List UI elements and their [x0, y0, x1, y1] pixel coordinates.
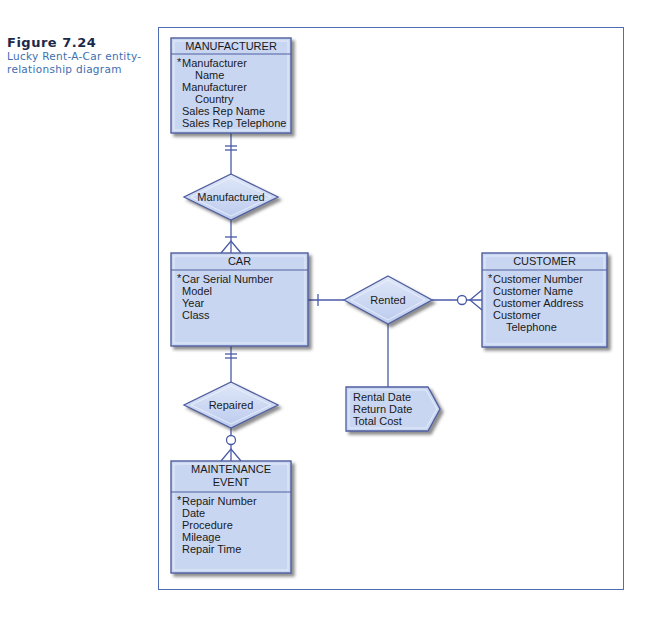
entity-attribute: Repair Time [182, 543, 241, 555]
zero-circle-icon [227, 436, 236, 445]
entity-maintenance-event: MAINTENANCEEVENT*Repair NumberDateProced… [171, 461, 291, 573]
entity-attribute: Repair Number [182, 495, 257, 507]
relationship-repaired: Repaired [184, 382, 278, 428]
er-diagram: MANUFACTURER*ManufacturerNameManufacture… [0, 0, 655, 624]
relationship-label: Manufactured [197, 191, 264, 203]
entity-manufacturer: MANUFACTURER*ManufacturerNameManufacture… [171, 38, 291, 133]
entity-attribute: Customer [493, 309, 541, 321]
rental-attribute: Total Cost [353, 415, 402, 427]
rental-attribute: Rental Date [353, 391, 411, 403]
entity-customer: CUSTOMER*Customer NumberCustomer NameCus… [482, 253, 607, 347]
relationship-label: Repaired [209, 399, 254, 411]
entity-car: CAR*Car Serial NumberModelYearClass [171, 253, 308, 346]
relationship-label: Rented [370, 294, 405, 306]
rental-attributes-box: Rental Date Return Date Total Cost [346, 387, 440, 431]
entity-attribute: Country [195, 93, 234, 105]
entity-attribute: Procedure [182, 519, 233, 531]
entity-attribute: Model [182, 285, 212, 297]
entity-attribute: Sales Rep Telephone [182, 117, 286, 129]
entity-attribute: Customer Name [493, 285, 573, 297]
entity-attribute: Mileage [182, 531, 221, 543]
entity-attribute: Date [182, 507, 205, 519]
entity-attribute: Customer Number [493, 273, 583, 285]
zero-circle-icon [458, 296, 467, 305]
entity-attribute: Car Serial Number [182, 273, 273, 285]
entity-attribute: Telephone [506, 321, 557, 333]
entity-attribute: Year [182, 297, 205, 309]
entity-attribute: Manufacturer [182, 81, 247, 93]
entity-attribute: Sales Rep Name [182, 105, 265, 117]
entity-title: CAR [228, 255, 251, 267]
entity-attribute: Name [195, 69, 224, 81]
entity-title: MANUFACTURER [185, 40, 277, 52]
entity-attribute: Class [182, 309, 210, 321]
entity-title: EVENT [213, 476, 250, 488]
entity-attribute: Manufacturer [182, 57, 247, 69]
rental-attribute: Return Date [353, 403, 412, 415]
entity-attribute: Customer Address [493, 297, 584, 309]
relationship-manufactured: Manufactured [184, 174, 278, 220]
entity-title: CUSTOMER [513, 255, 576, 267]
relationship-rented: Rented [344, 276, 432, 324]
entity-title: MAINTENANCE [191, 463, 271, 475]
